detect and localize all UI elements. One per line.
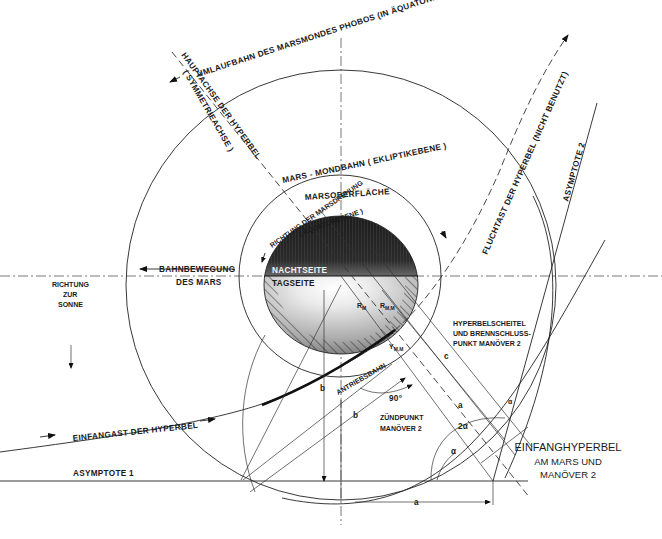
label-day-side: TAGSEITE — [272, 279, 315, 288]
label-sun-direction-3: SONNE — [58, 301, 83, 308]
label-a-bottom: a — [414, 498, 419, 507]
label-a-symmetry: a — [458, 401, 463, 410]
label-vertex: HYPERBELSCHEITEL — [453, 320, 526, 327]
label-b: b — [320, 384, 325, 393]
label-ignition: ZÜNDPUNKT — [380, 413, 424, 421]
label-sun-direction-2: ZUR — [63, 291, 77, 298]
label-burn-arc: ANTRIEBSBAHN — [335, 362, 387, 396]
label-sun-direction: RICHTUNG — [52, 281, 89, 288]
label-asymptote-2: ASYMPTOTE 2 — [561, 141, 586, 202]
label-b2: b — [353, 411, 358, 420]
diagram-title-3: MANÖVER 2 — [540, 469, 596, 480]
label-phobos-orbit: UMLAUFBAHN DES MARSMONDES PHOBOS (IN ÄQU… — [196, 0, 511, 79]
label-alpha-2: α — [508, 398, 513, 405]
label-asymptote-1: ASYMPTOTE 1 — [73, 469, 134, 478]
capture-hyperbola-diagram: UMLAUFBAHN DES MARSMONDES PHOBOS (IN ÄQU… — [0, 0, 662, 539]
label-orbital-motion: BAHNBEWEGUNG — [159, 265, 235, 274]
label-capture-branch: EINFANGAST DER HYPERBEL — [72, 421, 198, 443]
label-c: c — [444, 352, 449, 361]
label-ignition-2: MANÖVER 2 — [380, 424, 422, 432]
label-vertex-2: UND BRENNSCHLUSS- — [453, 330, 531, 337]
label-escape-branch: FLUCHTAST DER HYPERBEL (NICHT BENUTZT) — [481, 70, 570, 256]
label-night-side: NACHTSEITE — [272, 266, 328, 275]
right-loop-arc — [505, 196, 553, 478]
left-arc — [243, 335, 265, 492]
label-orbital-motion-2: DES MARS — [176, 278, 222, 287]
diagram-title-2: AM MARS UND — [534, 456, 602, 467]
escape-branch-curve — [395, 35, 568, 330]
label-alpha-1: α — [451, 447, 456, 456]
diagram-title: EINFANGHYPERBEL — [515, 441, 622, 453]
label-y-mm: YM,M — [389, 343, 403, 352]
label-vertex-3: PUNKT MANÖVER 2 — [453, 339, 521, 347]
label-angle-90: 90° — [389, 394, 402, 403]
label-2alpha: 2α — [458, 422, 468, 431]
